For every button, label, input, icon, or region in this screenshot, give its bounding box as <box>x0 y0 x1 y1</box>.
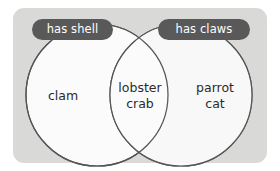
venn-diagram-figure: has shell has claws clam lobster crab pa… <box>0 0 280 171</box>
region-intersection: lobster crab <box>107 80 173 111</box>
region-left-item-0: clam <box>30 88 96 104</box>
set-label-has-claws: has claws <box>158 19 250 40</box>
region-right-item-1: cat <box>182 96 248 112</box>
region-right-only: parrot cat <box>182 80 248 111</box>
region-right-item-0: parrot <box>182 80 248 96</box>
region-intersection-item-0: lobster <box>107 80 173 96</box>
region-intersection-item-1: crab <box>107 96 173 112</box>
region-left-only: clam <box>30 88 96 104</box>
set-label-has-shell: has shell <box>32 19 113 40</box>
